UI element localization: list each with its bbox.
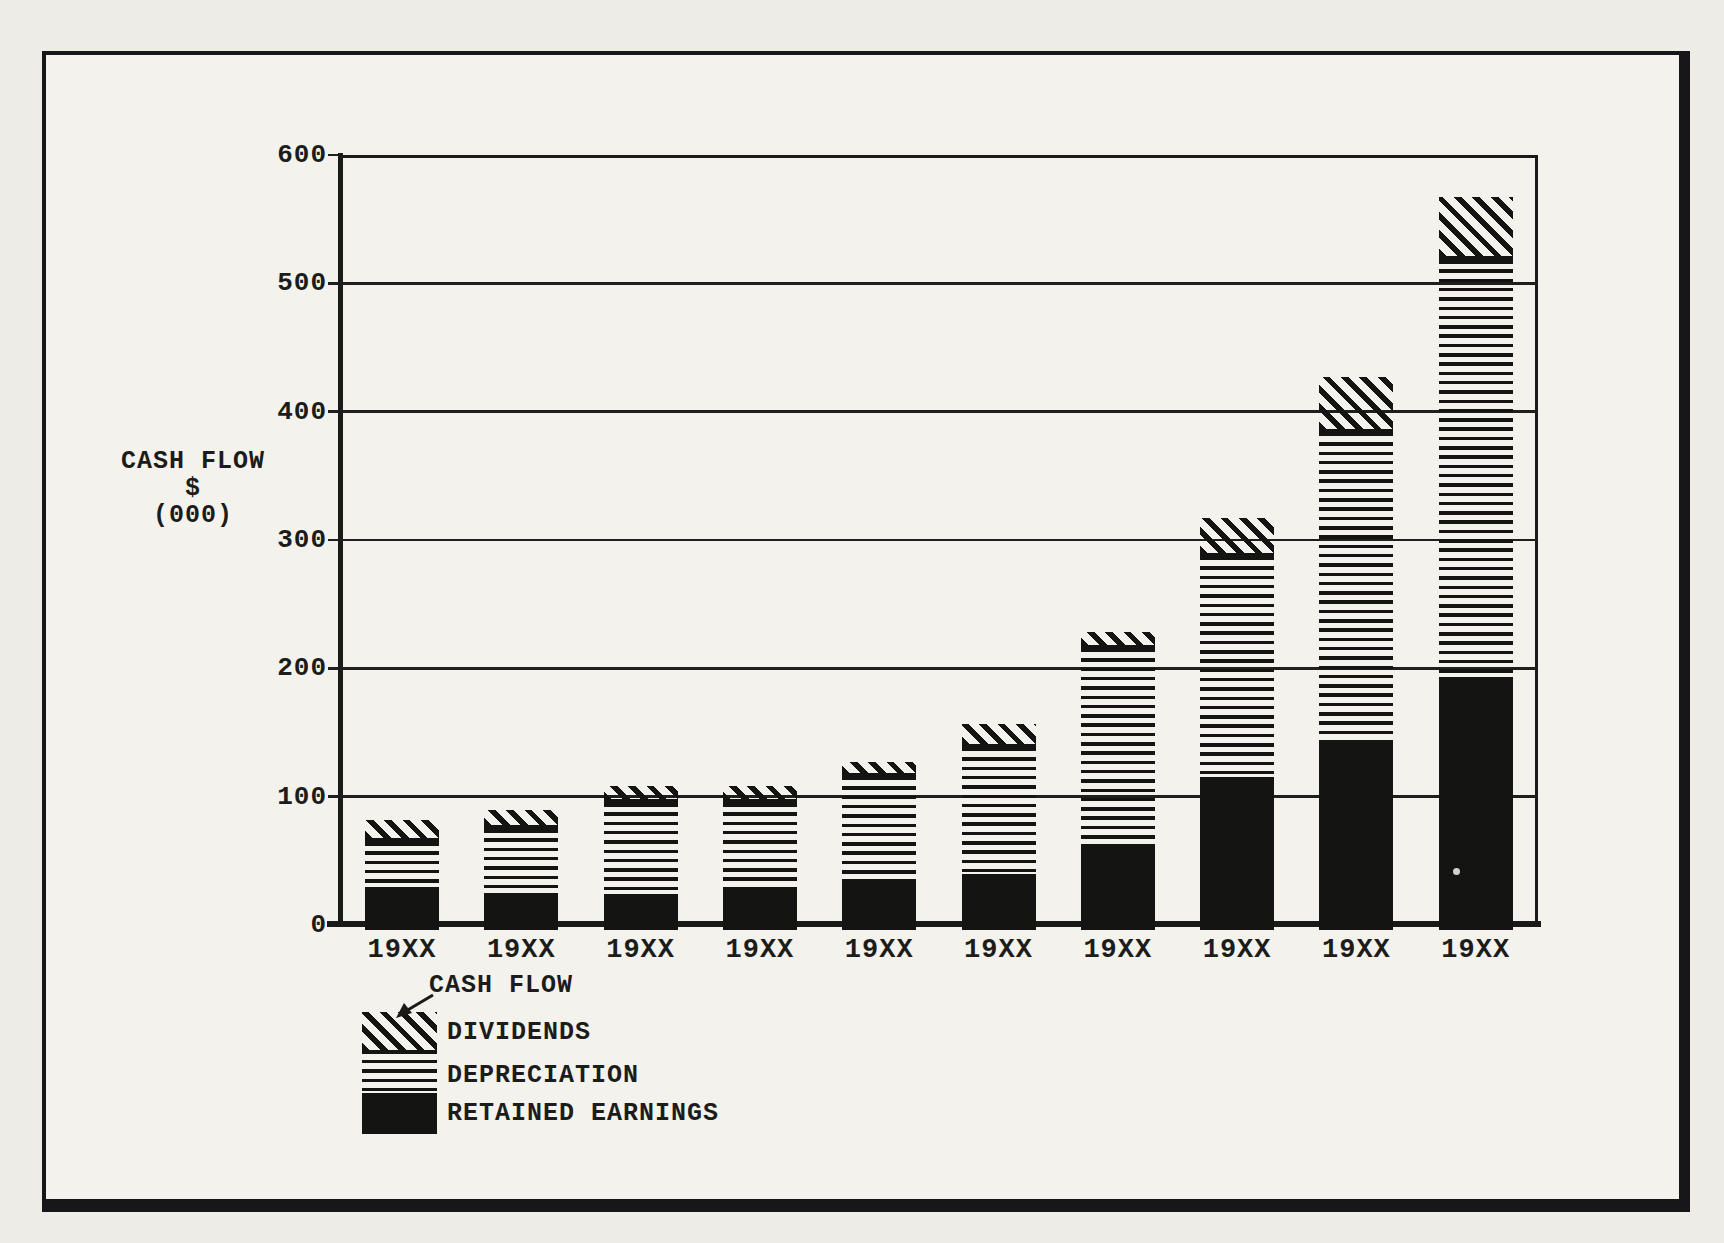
bar-3-depreciation (604, 803, 678, 894)
bar-7-depreciation (1081, 649, 1155, 847)
x-tick-label-1: 19XX (342, 935, 462, 965)
legend-label-dividends: DIVIDENDS (447, 1018, 591, 1048)
x-tick-label-2: 19XX (461, 935, 581, 965)
y-tick-label-400: 400 (230, 398, 327, 426)
bar-5-retained-earnings (842, 880, 916, 930)
x-tick-label-3: 19XX (581, 935, 701, 965)
legend-pointer-label: CASH FLOW (429, 971, 573, 1000)
scanned-page: CASH FLOW $ (000) 010020030040050060019X… (0, 0, 1724, 1243)
bar-3-dividends (604, 786, 678, 803)
bar-6-depreciation (962, 748, 1036, 874)
bar-7-dividends (1081, 632, 1155, 649)
bar-4-depreciation (723, 803, 797, 888)
bar-10-retained-earnings (1439, 677, 1513, 930)
bar-2-depreciation (484, 829, 558, 893)
bar-2-dividends (484, 810, 558, 829)
y-axis-title-line-1: CASH FLOW (103, 448, 283, 475)
x-tick-label-5: 19XX (819, 935, 939, 965)
bar-1-dividends (365, 820, 439, 842)
bar-3-retained-earnings (604, 894, 678, 930)
y-axis-title-line-2: $ (103, 475, 283, 502)
bar-9-dividends (1319, 377, 1393, 433)
gridline-500 (340, 282, 1538, 285)
y-tick-600 (328, 154, 339, 157)
y-tick-300 (328, 539, 339, 542)
bar-8-dividends (1200, 518, 1274, 557)
bar-6-retained-earnings (962, 874, 1036, 930)
x-tick-label-8: 19XX (1177, 935, 1297, 965)
bar-5-dividends (842, 762, 916, 777)
y-tick-label-600: 600 (230, 141, 327, 169)
bar-9-retained-earnings (1319, 741, 1393, 930)
bar-7-retained-earnings (1081, 847, 1155, 930)
bar-4-dividends (723, 786, 797, 803)
bar-8-retained-earnings (1200, 777, 1274, 930)
y-tick-label-100: 100 (230, 783, 327, 811)
y-axis-title-line-3: (000) (103, 502, 283, 529)
bar-8-depreciation (1200, 557, 1274, 778)
legend-swatch-depreciation (362, 1060, 437, 1091)
y-tick-label-0: 0 (230, 911, 327, 939)
bar-4-retained-earnings (723, 888, 797, 930)
bar-10-depreciation (1439, 260, 1513, 677)
bar-1-retained-earnings (365, 887, 439, 931)
scan-speck (1453, 868, 1460, 875)
y-tick-200 (328, 667, 339, 670)
legend-swatch-retained-earnings (362, 1093, 437, 1134)
legend-pointer-arrow-icon (392, 992, 438, 1022)
x-tick-label-4: 19XX (700, 935, 820, 965)
bar-9-depreciation (1319, 433, 1393, 741)
bar-10-dividends (1439, 197, 1513, 260)
bar-6-dividends (962, 724, 1036, 748)
x-tick-label-10: 19XX (1416, 935, 1536, 965)
y-tick-label-300: 300 (230, 526, 327, 554)
x-tick-label-7: 19XX (1058, 935, 1178, 965)
x-tick-label-6: 19XX (939, 935, 1059, 965)
y-tick-100 (328, 795, 339, 798)
y-tick-400 (328, 410, 339, 413)
y-tick-500 (328, 282, 339, 285)
legend-label-depreciation: DEPRECIATION (447, 1061, 639, 1091)
bar-5-depreciation (842, 777, 916, 880)
x-tick-label-9: 19XX (1296, 935, 1416, 965)
y-axis-title: CASH FLOW $ (000) (103, 448, 283, 529)
legend-label-retained-earnings: RETAINED EARNINGS (447, 1099, 719, 1129)
plot-border-top (340, 155, 1538, 158)
bar-1-depreciation (365, 842, 439, 887)
y-tick-label-500: 500 (230, 269, 327, 297)
bar-2-retained-earnings (484, 893, 558, 930)
y-tick-label-200: 200 (230, 654, 327, 682)
